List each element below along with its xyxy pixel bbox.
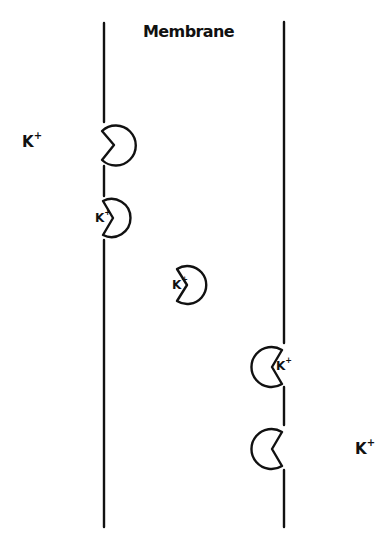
bound-ion-carrier-3-label: K+ [172,278,188,291]
ion-charge: + [34,130,42,141]
carrier-empty-right-icon [251,429,282,469]
ion-symbol: K [95,211,104,225]
membrane-title: Membrane [143,24,234,40]
bound-ion-carrier-2-label: K+ [95,211,111,224]
diagram-canvas [0,0,391,540]
carrier-transport-diagram: Membrane K+ K+ K+ K+ K+ [0,0,391,540]
free-ion-right-label: K+ [355,440,375,457]
ion-symbol: K [172,278,181,292]
ion-symbol: K [276,359,285,373]
carrier-empty-left-icon [102,126,136,166]
ion-charge: + [104,208,111,217]
ion-symbol: K [355,440,367,458]
bound-ion-carrier-4-label: K+ [276,359,292,372]
ion-charge: + [367,437,375,448]
ion-symbol: K [22,133,34,151]
ion-charge: + [181,275,188,284]
ion-charge: + [285,356,292,365]
free-ion-left-label: K+ [22,133,42,150]
